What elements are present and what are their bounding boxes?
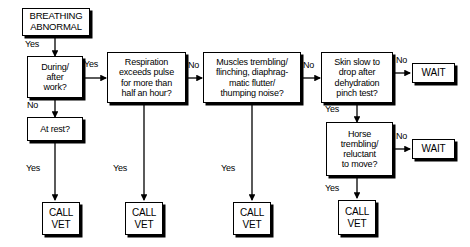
node-wait-1[interactable]: WAIT	[412, 63, 455, 83]
edge-label-start-to-during-after-work: Yes	[25, 39, 39, 49]
node-horse-trembling-reluctant[interactable]: Horse trembling/ reluctant to move?	[326, 122, 393, 176]
edge-label-horse-trembling-no: No	[396, 131, 407, 141]
node-call-vet-3[interactable]: CALL VET	[233, 202, 271, 235]
edge-label-respiration-yes: Yes	[113, 163, 127, 173]
node-call-vet-4[interactable]: CALL VET	[338, 200, 376, 235]
node-call-vet-1[interactable]: CALL VET	[42, 202, 80, 235]
node-muscles-trembling[interactable]: Muscles trembling/ flinching, diaphrag- …	[203, 52, 301, 103]
node-skin-slow-pinch-test[interactable]: Skin slow to drop after dehydration pinc…	[321, 52, 393, 103]
edge-label-muscles-no: No	[303, 60, 314, 70]
edge-label-skin-slow-no: No	[396, 55, 407, 65]
edge-label-at-rest-yes: Yes	[26, 163, 40, 173]
node-call-vet-2[interactable]: CALL VET	[125, 202, 163, 235]
node-respiration-exceeds-pulse[interactable]: Respiration exceeds pulse for more than …	[107, 52, 186, 103]
node-wait-2[interactable]: WAIT	[412, 139, 455, 159]
edge-label-during-after-work-yes: Yes	[84, 59, 98, 69]
edge-label-muscles-yes: Yes	[221, 163, 235, 173]
edge-label-horse-trembling-yes: Yes	[325, 183, 339, 193]
edge-label-respiration-no: No	[188, 60, 199, 70]
node-during-after-work[interactable]: During/ after work?	[27, 56, 83, 98]
edge-label-during-after-work-no: No	[27, 100, 38, 110]
node-at-rest[interactable]: At rest?	[27, 117, 83, 141]
node-breathing-abnormal[interactable]: BREATHING ABNORMAL	[22, 8, 90, 36]
edge-label-skin-slow-yes: Yes	[325, 104, 339, 114]
flowchart-canvas: Yes-> Respiration box --> No-> At rest? …	[0, 0, 470, 247]
